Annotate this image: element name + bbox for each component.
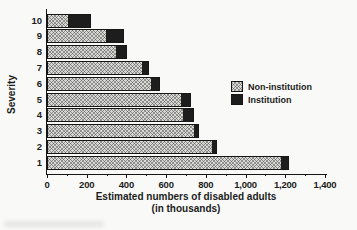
segment-institution: [212, 141, 216, 153]
y-tick-label: 4: [18, 109, 42, 120]
x-major-tick: [47, 174, 48, 178]
segment-institution: [194, 125, 198, 137]
segment-non-institution: [48, 78, 151, 90]
segment-institution: [281, 157, 288, 169]
segment-non-institution: [48, 62, 142, 74]
x-major-tick: [325, 174, 326, 178]
segment-non-institution: [48, 109, 183, 121]
y-tick-label: 6: [18, 78, 42, 89]
y-tick-label: 2: [18, 141, 42, 152]
segment-non-institution: [48, 30, 106, 42]
bar-severity-10: [47, 14, 91, 28]
institution-swatch-icon: [231, 94, 243, 105]
y-tick-label: 3: [18, 125, 42, 136]
x-tick-label: 1,000: [226, 179, 266, 190]
segment-institution: [106, 30, 124, 42]
segment-non-institution: [48, 94, 181, 106]
x-major-tick: [285, 174, 286, 178]
segment-institution: [142, 62, 148, 74]
legend: Non-institution Institution: [231, 81, 312, 107]
x-tick-label: 200: [67, 179, 107, 190]
x-major-tick: [206, 174, 207, 178]
segment-non-institution: [48, 15, 68, 27]
segment-non-institution: [48, 157, 281, 169]
segment-institution: [68, 15, 90, 27]
bar-severity-6: [47, 77, 160, 91]
x-minor-tick: [186, 174, 187, 177]
bar-severity-5: [47, 93, 191, 107]
scan-smudge: [4, 221, 104, 227]
segment-institution: [181, 94, 190, 106]
bar-severity-3: [47, 124, 199, 138]
non-institution-swatch-icon: [231, 81, 243, 92]
y-tick-label: 5: [18, 94, 42, 105]
x-tick-label: 1,400: [305, 179, 345, 190]
x-axis-title: Estimated numbers of disabled adults: [20, 191, 352, 202]
x-tick-label: 600: [146, 179, 186, 190]
x-major-tick: [87, 174, 88, 178]
legend-item-institution: Institution: [231, 94, 312, 105]
x-minor-tick: [305, 174, 306, 177]
y-tick-label: 10: [18, 15, 42, 26]
segment-non-institution: [48, 46, 116, 58]
segment-institution: [183, 109, 193, 121]
bar-severity-8: [47, 45, 127, 59]
x-minor-tick: [107, 174, 108, 177]
bar-severity-9: [47, 29, 124, 43]
y-tick-label: 8: [18, 46, 42, 57]
x-tick-label: 1,200: [265, 179, 305, 190]
y-tick-label: 9: [18, 30, 42, 41]
x-axis-title-units: (in thousands): [20, 203, 352, 214]
bar-severity-1: [47, 156, 289, 170]
legend-item-non-institution: Non-institution: [231, 81, 312, 92]
x-tick-label: 800: [186, 179, 226, 190]
y-tick-label: 7: [18, 62, 42, 73]
bar-severity-2: [47, 140, 217, 154]
x-minor-tick: [226, 174, 227, 177]
x-major-tick: [246, 174, 247, 178]
segment-non-institution: [48, 141, 212, 153]
x-tick-label: 0: [27, 179, 67, 190]
y-axis-title: Severity: [6, 50, 19, 140]
x-major-tick: [126, 174, 127, 178]
segment-non-institution: [48, 125, 194, 137]
segment-institution: [116, 46, 127, 58]
segment-institution: [151, 78, 159, 90]
legend-label-non-institution: Non-institution: [248, 82, 312, 92]
y-tick-label: 1: [18, 157, 42, 168]
x-minor-tick: [67, 174, 68, 177]
x-minor-tick: [265, 174, 266, 177]
x-major-tick: [166, 174, 167, 178]
bar-severity-4: [47, 108, 194, 122]
x-tick-label: 400: [106, 179, 146, 190]
bar-severity-7: [47, 61, 149, 75]
legend-label-institution: Institution: [248, 95, 292, 105]
figure: Severity 10987654321 02004006008001,0001…: [0, 0, 357, 230]
x-minor-tick: [146, 174, 147, 177]
